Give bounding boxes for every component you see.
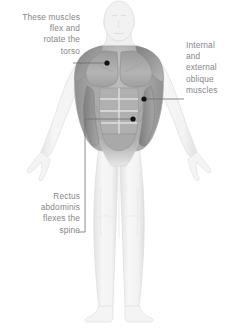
marker-dot-torso [104, 60, 109, 65]
legs-group [85, 140, 153, 322]
callout-label-torso: These muscles flex and rotate the torso [2, 12, 80, 57]
marker-dot-rectus [130, 116, 135, 121]
callout-label-oblique: Internal and external oblique muscles [186, 40, 238, 96]
anatomy-diagram: These muscles flex and rotate the torso … [0, 0, 238, 331]
head-neck-group [102, 1, 136, 46]
marker-dot-oblique [141, 96, 146, 101]
torso-group [75, 46, 164, 166]
callout-label-rectus: Rectus abdominis flexes the spine [8, 191, 80, 236]
